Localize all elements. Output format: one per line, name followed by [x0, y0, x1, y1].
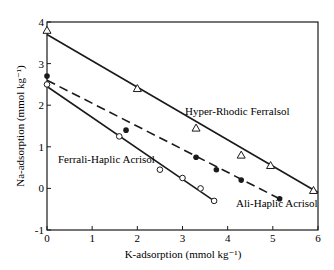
y-tick-label: 3 — [39, 58, 45, 70]
series-label-hyper-rhodic: Hyper-Rhodic Ferralsol — [185, 105, 290, 117]
filled-circle-marker — [193, 154, 199, 160]
y-tick-label: 4 — [39, 16, 45, 28]
series-ferrali-haplic-acrisol — [44, 82, 217, 204]
x-tick-label: 4 — [225, 232, 231, 244]
x-tick-label: 0 — [44, 232, 50, 244]
x-tick-label: 1 — [89, 232, 95, 244]
axis-ticks: 0123456-101234 — [35, 16, 321, 244]
open-circle-marker — [157, 167, 163, 173]
chart: 0123456-101234 K-adsorption (mmol kg⁻¹) … — [0, 0, 334, 270]
x-tick-label: 3 — [180, 232, 186, 244]
triangle-marker — [237, 151, 245, 158]
filled-circle-marker — [44, 73, 50, 79]
y-tick-label: 0 — [39, 182, 45, 194]
triangle-marker — [192, 124, 200, 131]
y-tick-label: -1 — [35, 224, 44, 236]
series-label-ali-haplic: Ali-Haplic Acrisol — [236, 197, 318, 209]
open-circle-marker — [180, 175, 186, 181]
x-tick-label: 5 — [270, 232, 276, 244]
y-axis-title: Na-adsorption (mmol kg⁻¹) — [14, 65, 27, 187]
triangle-marker — [43, 26, 51, 33]
fit-line — [47, 86, 214, 200]
filled-circle-marker — [238, 177, 244, 183]
y-tick-label: 1 — [39, 141, 45, 153]
x-tick-label: 6 — [315, 232, 321, 244]
filled-circle-marker — [214, 167, 220, 173]
open-circle-marker — [116, 134, 122, 140]
open-circle-marker — [44, 82, 50, 88]
open-circle-marker — [198, 186, 204, 192]
x-tick-label: 2 — [135, 232, 141, 244]
x-axis-title: K-adsorption (mmol kg⁻¹) — [125, 248, 242, 261]
y-tick-label: 2 — [39, 99, 45, 111]
filled-circle-marker — [123, 127, 129, 133]
series-ali-haplic-acrisol — [44, 73, 282, 201]
series-label-ferrali-haplic: Ferrali-Haplic Acrisol — [58, 153, 155, 165]
open-circle-marker — [211, 198, 217, 204]
fit-line — [47, 80, 280, 199]
